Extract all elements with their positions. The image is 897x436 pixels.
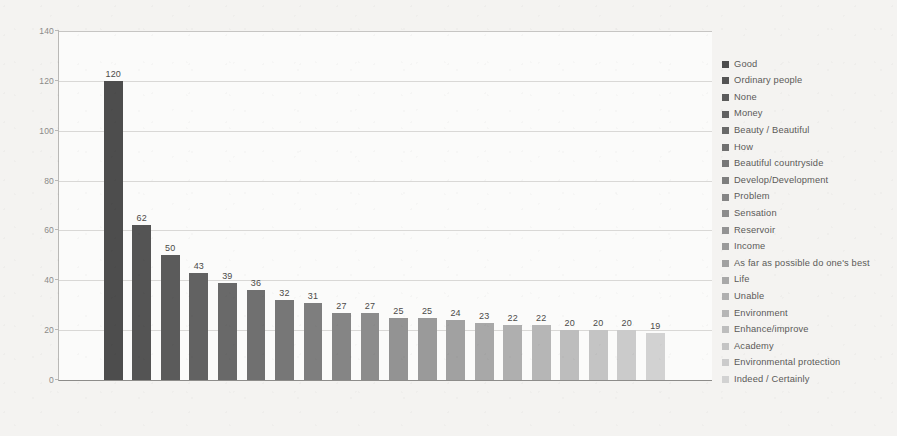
y-axis-tick-label: 40 [44, 275, 54, 285]
legend-swatch-icon [722, 293, 729, 300]
bar-slot: 39 [213, 31, 242, 380]
legend-item-label: Money [734, 109, 763, 118]
legend-item[interactable]: Reservoir [722, 222, 892, 239]
bar-slot: 22 [498, 31, 527, 380]
bar-slot: 22 [527, 31, 556, 380]
bar-value-label: 50 [165, 243, 175, 253]
bar[interactable]: 25 [389, 318, 408, 380]
legend-item-label: Develop/Development [734, 176, 828, 185]
bar[interactable]: 120 [104, 81, 123, 380]
legend-swatch-icon [722, 310, 729, 317]
bar-value-label: 31 [308, 291, 318, 301]
legend-item[interactable]: Environmental protection [722, 355, 892, 372]
bar-slot: 50 [156, 31, 185, 380]
bar-slot: 120 [99, 31, 128, 380]
bar[interactable]: 25 [418, 318, 437, 380]
legend-item[interactable]: How [722, 139, 892, 156]
legend-item[interactable]: Beauty / Beautiful [722, 122, 892, 139]
legend-item[interactable]: Indeed / Certainly [722, 371, 892, 388]
legend-swatch-icon [722, 277, 729, 284]
legend-item[interactable]: Money [722, 106, 892, 123]
bar-value-label: 43 [194, 261, 204, 271]
bar[interactable]: 36 [247, 290, 266, 380]
bar-value-label: 20 [593, 318, 603, 328]
bar-value-label: 36 [251, 278, 261, 288]
bar[interactable]: 32 [275, 300, 294, 380]
bar[interactable]: 24 [446, 320, 465, 380]
bar[interactable]: 23 [475, 323, 494, 380]
legend-item-label: Unable [734, 292, 764, 301]
bar-slot: 25 [413, 31, 442, 380]
bar-value-label: 22 [507, 313, 517, 323]
legend-item[interactable]: Enhance/improve [722, 322, 892, 339]
legend-item-label: Environmental protection [734, 358, 840, 367]
y-axis-tick-label: 140 [39, 26, 54, 36]
bar-slot: 27 [327, 31, 356, 380]
bar-value-label: 25 [393, 306, 403, 316]
legend-item[interactable]: Income [722, 239, 892, 256]
bar-value-label: 24 [450, 308, 460, 318]
bar-value-label: 39 [222, 271, 232, 281]
y-axis-tick-label: 100 [39, 126, 54, 136]
bar-value-label: 120 [105, 69, 121, 79]
bar-value-label: 27 [365, 301, 375, 311]
bar-value-label: 32 [279, 288, 289, 298]
legend-item[interactable]: Unable [722, 288, 892, 305]
legend-item[interactable]: Academy [722, 338, 892, 355]
y-axis-tick-label: 120 [39, 76, 54, 86]
bar[interactable]: 22 [503, 325, 522, 380]
legend-item-label: As far as possible do one's best [734, 259, 870, 268]
legend-item[interactable]: Sensation [722, 205, 892, 222]
bar[interactable]: 43 [189, 273, 208, 380]
bar[interactable]: 31 [304, 303, 323, 380]
legend-item[interactable]: Develop/Development [722, 172, 892, 189]
legend-item[interactable]: Ordinary people [722, 73, 892, 90]
bar[interactable]: 50 [161, 255, 180, 380]
bar-value-label: 27 [336, 301, 346, 311]
legend-swatch-icon [722, 77, 729, 84]
bar[interactable]: 19 [646, 333, 665, 380]
legend-item[interactable]: Problem [722, 189, 892, 206]
bar-value-label: 20 [622, 318, 632, 328]
legend-swatch-icon [722, 111, 729, 118]
legend-item-label: Beautiful countryside [734, 159, 823, 168]
legend-item[interactable]: Environment [722, 305, 892, 322]
bar-value-label: 25 [422, 306, 432, 316]
bar-slot: 20 [613, 31, 642, 380]
y-axis-tick-mark [55, 379, 59, 380]
legend-swatch-icon [722, 210, 729, 217]
bar[interactable]: 22 [532, 325, 551, 380]
legend-swatch-icon [722, 343, 729, 350]
bar[interactable]: 62 [132, 225, 151, 380]
bar[interactable]: 39 [218, 283, 237, 380]
bar-slot: 27 [356, 31, 385, 380]
y-axis-tick-label: 80 [44, 176, 54, 186]
legend-item-label: Good [734, 60, 757, 69]
chart-page: 140120100806040200 120625043393632312727… [0, 0, 897, 436]
legend-swatch-icon [722, 144, 729, 151]
bar-slot: 19 [641, 31, 670, 380]
legend-item-label: Ordinary people [734, 76, 802, 85]
legend-item-label: None [734, 93, 757, 102]
bar-slot: 32 [270, 31, 299, 380]
bar-value-label: 22 [536, 313, 546, 323]
bar-slot: 62 [128, 31, 157, 380]
bar[interactable]: 27 [332, 313, 351, 380]
legend-swatch-icon [722, 326, 729, 333]
bar-slot: 24 [441, 31, 470, 380]
legend-item[interactable]: Life [722, 272, 892, 289]
legend-item[interactable]: Good [722, 56, 892, 73]
legend-swatch-icon [722, 260, 729, 267]
chart-legend: GoodOrdinary peopleNoneMoneyBeauty / Bea… [722, 56, 892, 388]
bar[interactable]: 20 [589, 330, 608, 380]
y-axis-tick-label: 20 [44, 325, 54, 335]
bar[interactable]: 27 [361, 313, 380, 380]
bar[interactable]: 20 [617, 330, 636, 380]
legend-item[interactable]: None [722, 89, 892, 106]
bar-slot: 20 [556, 31, 585, 380]
bar-value-label: 19 [650, 321, 660, 331]
bar-slot: 25 [384, 31, 413, 380]
legend-item[interactable]: Beautiful countryside [722, 156, 892, 173]
bar[interactable]: 20 [560, 330, 579, 380]
legend-item[interactable]: As far as possible do one's best [722, 255, 892, 272]
